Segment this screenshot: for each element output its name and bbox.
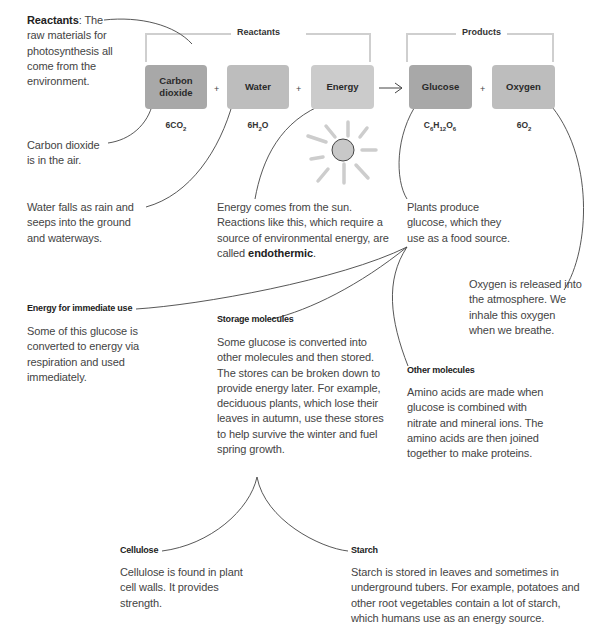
other-molecules-text: Amino acids are made when glucose is com… bbox=[407, 385, 557, 461]
energy-annotation: Energy comes from the sun. Reactions lik… bbox=[217, 200, 397, 261]
products-group-label: Products bbox=[456, 27, 507, 37]
co2-formula: 6CO2 bbox=[141, 120, 211, 132]
energy-immediate-heading: Energy for immediate use bbox=[27, 303, 132, 313]
products-bracket bbox=[407, 34, 553, 62]
water-box: Water bbox=[227, 65, 289, 109]
o2-formula: 6O2 bbox=[489, 120, 559, 132]
energy-immediate-text: Some of this glucose is converted to ene… bbox=[27, 324, 147, 385]
reactants-bracket bbox=[146, 34, 370, 62]
glucose-formula: C6H12O6 bbox=[405, 120, 475, 132]
plus-sign: + bbox=[214, 84, 219, 94]
co2-annotation: Carbon dioxide is in the air. bbox=[27, 138, 109, 169]
cellulose-text: Cellulose is found in plant cell walls. … bbox=[120, 565, 255, 611]
water-annotation: Water falls as rain and seeps into the g… bbox=[27, 200, 147, 246]
storage-molecules-heading: Storage molecules bbox=[217, 314, 294, 324]
reactants-group-label: Reactants bbox=[231, 27, 286, 37]
cellulose-heading: Cellulose bbox=[120, 545, 158, 555]
starch-text: Starch is stored in leaves and sometimes… bbox=[351, 565, 586, 626]
oxygen-box: Oxygen bbox=[492, 65, 555, 109]
carbon-dioxide-box: Carbondioxide bbox=[145, 65, 207, 109]
storage-molecules-text: Some glucose is converted into other mol… bbox=[217, 335, 385, 457]
reaction-arrow-icon bbox=[379, 83, 402, 93]
h2o-formula: 6H2O bbox=[223, 120, 293, 132]
sun-disc bbox=[332, 139, 354, 161]
plus-sign: + bbox=[296, 84, 301, 94]
starch-heading: Starch bbox=[351, 545, 378, 555]
energy-box: Energy bbox=[311, 65, 374, 109]
glucose-box: Glucose bbox=[409, 65, 472, 109]
oxygen-annotation: Oxygen is released into the atmosphere. … bbox=[469, 277, 584, 338]
plus-sign: + bbox=[480, 84, 485, 94]
reactants-annotation: Reactants: The raw materials for photosy… bbox=[27, 13, 119, 89]
other-molecules-heading: Other molecules bbox=[407, 365, 475, 375]
glucose-annotation: Plants produce glucose, which they use a… bbox=[407, 200, 512, 246]
